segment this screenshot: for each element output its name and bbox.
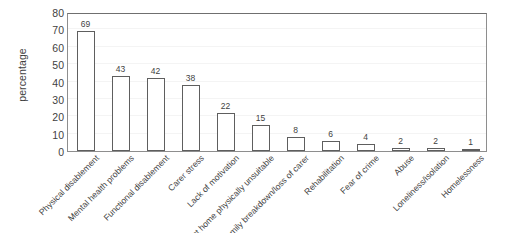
bar-group[interactable]: 4 xyxy=(357,12,375,151)
bars-layer: 694342382215864221 xyxy=(68,14,486,151)
bar-group[interactable]: 43 xyxy=(112,12,130,151)
y-tick-label: 30 xyxy=(38,95,64,106)
bar[interactable] xyxy=(357,144,375,151)
bar-value-label: 8 xyxy=(293,126,298,135)
bar-value-label: 1 xyxy=(468,138,473,147)
y-tick-label: 0 xyxy=(38,147,64,158)
bar-value-label: 42 xyxy=(151,67,160,76)
bar-group[interactable]: 2 xyxy=(427,12,445,151)
y-tick-label: 10 xyxy=(38,129,64,140)
plot-area: 694342382215864221 xyxy=(67,13,487,152)
bar-group[interactable]: 6 xyxy=(322,12,340,151)
y-tick-label: 70 xyxy=(38,25,64,36)
x-axis-label: Functional disablement xyxy=(101,153,171,223)
bar[interactable] xyxy=(77,31,95,151)
bar[interactable] xyxy=(112,76,130,151)
bar-group[interactable]: 2 xyxy=(392,12,410,151)
bar[interactable] xyxy=(252,125,270,151)
bar-group[interactable]: 42 xyxy=(147,12,165,151)
x-axis-label: Mental health problems xyxy=(65,153,135,223)
y-tick-label: 80 xyxy=(38,8,64,19)
bar[interactable] xyxy=(182,85,200,151)
bar-value-label: 38 xyxy=(186,74,195,83)
bar-group[interactable]: 1 xyxy=(462,12,480,151)
bar-value-label: 2 xyxy=(433,137,438,146)
x-axis-label: Physical disablement xyxy=(36,153,100,217)
bar-group[interactable]: 22 xyxy=(217,12,235,151)
y-axis-tick-labels: 01020304050607080 xyxy=(38,13,64,153)
bar-group[interactable]: 38 xyxy=(182,12,200,151)
y-tick-label: 40 xyxy=(38,77,64,88)
bar-value-label: 2 xyxy=(398,137,403,146)
y-tick-label: 60 xyxy=(38,43,64,54)
bar[interactable] xyxy=(217,113,235,151)
bar[interactable] xyxy=(322,141,340,151)
bar[interactable] xyxy=(287,137,305,151)
bar-group[interactable]: 69 xyxy=(77,12,95,151)
x-axis-label: Abuse xyxy=(391,153,415,177)
bar-chart-figure: percentage 01020304050607080 69434238221… xyxy=(0,0,509,233)
bar[interactable] xyxy=(427,148,445,151)
bar-value-label: 22 xyxy=(221,102,230,111)
bar-group[interactable]: 15 xyxy=(252,12,270,151)
bar-value-label: 69 xyxy=(81,20,90,29)
x-axis-category-labels: Physical disablementMental health proble… xyxy=(67,153,509,233)
bar-value-label: 6 xyxy=(328,130,333,139)
y-tick-label: 20 xyxy=(38,112,64,123)
bar[interactable] xyxy=(462,149,480,151)
bar[interactable] xyxy=(147,78,165,151)
bar-value-label: 4 xyxy=(363,133,368,142)
bar-value-label: 15 xyxy=(256,114,265,123)
y-tick-label: 50 xyxy=(38,60,64,71)
bar[interactable] xyxy=(392,148,410,151)
bar-value-label: 43 xyxy=(116,65,125,74)
bar-group[interactable]: 8 xyxy=(287,12,305,151)
